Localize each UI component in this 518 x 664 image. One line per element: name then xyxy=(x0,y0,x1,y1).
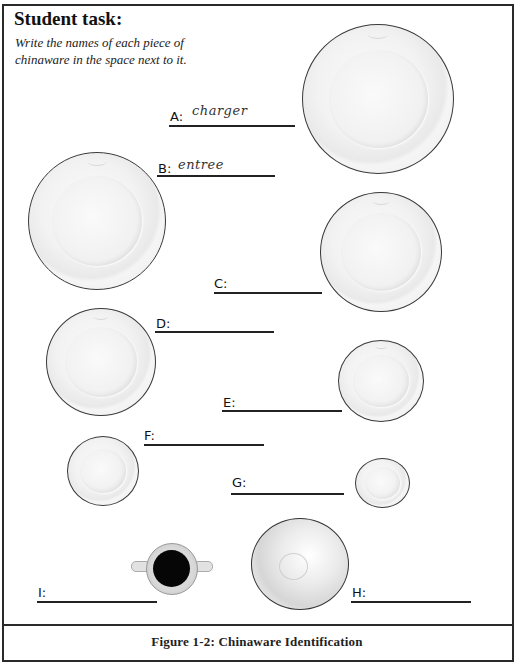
answer-a[interactable]: charger xyxy=(192,103,247,118)
answer-line-a[interactable] xyxy=(169,125,295,127)
label-b: B: xyxy=(158,162,171,176)
bouillon-cup-icon xyxy=(131,540,211,596)
answer-line-i[interactable] xyxy=(37,601,157,603)
answer-line-c[interactable] xyxy=(214,292,322,294)
label-f: F: xyxy=(144,429,155,443)
task-instructions: Write the names of each piece of chinawa… xyxy=(15,34,215,68)
task-title: Student task: xyxy=(14,8,122,30)
figure-caption: Figure 1-2: Chinaware Identification xyxy=(2,626,512,658)
soup-bowl-icon xyxy=(251,518,349,610)
answer-line-b[interactable] xyxy=(157,175,275,177)
label-a: A: xyxy=(170,110,183,124)
label-h: H: xyxy=(352,586,366,600)
answer-line-h[interactable] xyxy=(351,601,471,603)
medium-plate-icon xyxy=(46,308,156,416)
side-plate-icon xyxy=(67,436,139,506)
label-g: G: xyxy=(232,476,246,490)
dinner-plate-icon xyxy=(320,192,442,312)
label-c: C: xyxy=(214,277,227,291)
answer-line-e[interactable] xyxy=(222,410,342,412)
large-charger-plate-icon xyxy=(302,24,454,174)
entree-plate-icon xyxy=(28,152,166,290)
answer-line-f[interactable] xyxy=(144,444,264,446)
answer-b[interactable]: entree xyxy=(178,157,224,172)
label-d: D: xyxy=(156,317,170,331)
answer-line-d[interactable] xyxy=(155,331,274,333)
label-i: I: xyxy=(38,586,46,600)
salad-plate-icon xyxy=(338,340,424,422)
label-e: E: xyxy=(223,396,236,410)
saucer-icon xyxy=(355,458,410,508)
answer-line-g[interactable] xyxy=(231,493,344,495)
